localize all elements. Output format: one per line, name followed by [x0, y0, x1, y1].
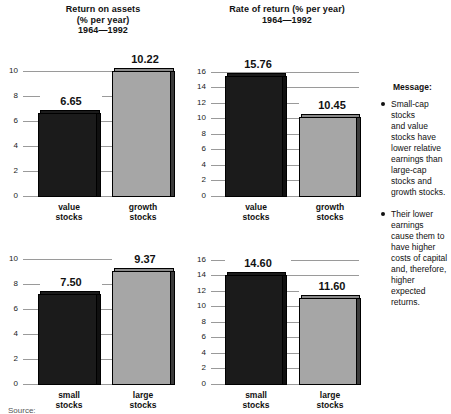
bar-value-label-small-stocks: 14.60 — [225, 256, 291, 269]
message-bullet-2: Their lower earnings cause them to have … — [381, 209, 451, 308]
message-bullet-line: earnings — [391, 220, 451, 231]
message-bullet-line: costs of capital — [391, 253, 451, 264]
message-bullet-line: Their lower — [391, 209, 451, 220]
bar-growth-stocks — [299, 114, 361, 197]
bar-large-stocks — [112, 268, 175, 385]
message-bullet-line: stocks and — [391, 176, 451, 187]
message-bullet-line: and, therefore, — [391, 264, 451, 275]
category-label-growth-stocks: growth stocks — [297, 202, 363, 222]
bar-value-label-large-stocks: 9.37 — [112, 252, 178, 265]
y-tick-label-6: 6 — [187, 333, 206, 341]
category-label-text: value stocks — [223, 202, 289, 222]
y-tick-label-2: 2 — [0, 355, 18, 363]
y-tick-label-4: 4 — [187, 349, 206, 357]
bar-value-label-growth-stocks: 10.45 — [299, 98, 365, 111]
chart-rate-of-return-value-growth: Rate of return (% per year) 1964—1992 0 … — [187, 4, 387, 216]
message-bullet-line: higher — [391, 275, 451, 286]
y-tick-label-8: 8 — [187, 130, 206, 138]
y-tick-label-8: 8 — [0, 280, 18, 288]
bar-small-stocks — [225, 272, 287, 385]
message-bullet-1: Small-cap stocks and value stocks have l… — [381, 99, 451, 198]
message-bullet-line: lower relative — [391, 143, 451, 154]
plot-area: 0 2 4 6 8 10 12 14 16 15.76 10.45 — [187, 4, 387, 216]
message-bullet-line: and value — [391, 121, 451, 132]
category-label-text: value stocks — [36, 202, 102, 222]
y-tick-label-16: 16 — [187, 256, 206, 264]
figure-canvas: Return on assets (% per year) 1964—1992 … — [0, 0, 451, 414]
y-tick-label-2: 2 — [187, 176, 206, 184]
bullet-dot-icon — [381, 212, 385, 216]
y-tick-label-0: 0 — [0, 192, 18, 200]
plot-area: 0 2 4 6 8 10 6.65 10.22 value stocks — [0, 4, 200, 216]
message-bullet-line: stocks have — [391, 132, 451, 143]
chart-return-on-assets-small-large: 0 2 4 6 8 10 7.50 9.37 small stocks — [0, 228, 200, 414]
category-label-value-stocks: value stocks — [223, 202, 289, 222]
message-bullet-line: expected — [391, 286, 451, 297]
y-tick-label-16: 16 — [187, 68, 206, 76]
chart-return-on-assets-value-growth: Return on assets (% per year) 1964—1992 … — [0, 4, 200, 216]
y-tick-label-4: 4 — [0, 142, 18, 150]
y-tick-label-0: 0 — [187, 380, 206, 388]
message-bullet-line: cause them to — [391, 231, 451, 242]
y-tick-label-4: 4 — [0, 330, 18, 338]
category-label-growth-stocks: growth stocks — [110, 202, 176, 222]
y-tick-label-0: 0 — [0, 380, 18, 388]
bar-front-face — [225, 76, 283, 197]
bar-front-face — [299, 298, 357, 385]
bar-value-label-value-stocks: 6.65 — [40, 94, 102, 107]
bullet-dot-icon — [381, 102, 385, 106]
message-bullet-line: stocks — [391, 110, 451, 121]
message-panel: Message: Small-cap stocks and value stoc… — [381, 82, 451, 319]
bar-value-stocks — [38, 110, 101, 197]
message-bullet-line: growth stocks. — [391, 187, 451, 198]
y-tick-label-6: 6 — [0, 305, 18, 313]
bar-front-face — [38, 294, 97, 385]
bar-front-face — [299, 117, 357, 197]
y-tick-label-12: 12 — [187, 99, 206, 107]
source-footer: Source: — [8, 406, 388, 414]
y-tick-label-8: 8 — [0, 92, 18, 100]
bar-growth-stocks — [112, 68, 175, 197]
y-tick-label-10: 10 — [0, 67, 18, 75]
bar-front-face — [112, 71, 171, 197]
y-tick-label-6: 6 — [0, 117, 18, 125]
y-tick-label-10: 10 — [187, 302, 206, 310]
category-label-value-stocks: value stocks — [36, 202, 102, 222]
message-bullet-line: returns. — [391, 297, 451, 308]
message-bullet-line: have higher — [391, 242, 451, 253]
bar-front-face — [112, 271, 171, 385]
y-tick-label-14: 14 — [187, 271, 206, 279]
bar-large-stocks — [299, 295, 361, 385]
bar-small-stocks — [38, 291, 101, 385]
y-tick-label-8: 8 — [187, 318, 206, 326]
message-bullet-line: Small-cap — [391, 99, 451, 110]
message-bullet-line: large-cap — [391, 165, 451, 176]
y-tick-label-10: 10 — [187, 114, 206, 122]
bar-value-label-large-stocks: 11.60 — [299, 279, 365, 292]
plot-area: 0 2 4 6 8 10 7.50 9.37 small stocks — [0, 228, 200, 414]
message-bullet-line: earnings than — [391, 154, 451, 165]
bar-value-stocks — [225, 73, 287, 197]
y-tick-label-0: 0 — [187, 192, 206, 200]
y-tick-label-2: 2 — [187, 364, 206, 372]
bar-value-label-small-stocks: 7.50 — [40, 275, 102, 288]
y-tick-label-6: 6 — [187, 145, 206, 153]
y-tick-label-12: 12 — [187, 287, 206, 295]
bar-value-label-value-stocks: 15.76 — [225, 57, 291, 70]
bar-value-label-growth-stocks: 10.22 — [112, 52, 178, 65]
y-tick-label-14: 14 — [187, 83, 206, 91]
category-label-text: growth stocks — [110, 202, 176, 222]
category-label-text: growth stocks — [297, 202, 363, 222]
y-tick-label-10: 10 — [0, 255, 18, 263]
y-tick-label-2: 2 — [0, 167, 18, 175]
chart-rate-of-return-small-large: 0 2 4 6 8 10 12 14 16 14.60 11.60 — [187, 228, 387, 414]
y-tick-label-4: 4 — [187, 161, 206, 169]
plot-area: 0 2 4 6 8 10 12 14 16 14.60 11.60 — [187, 228, 387, 414]
bar-front-face — [38, 113, 97, 197]
message-heading: Message: — [393, 82, 451, 92]
bar-front-face — [225, 275, 283, 385]
